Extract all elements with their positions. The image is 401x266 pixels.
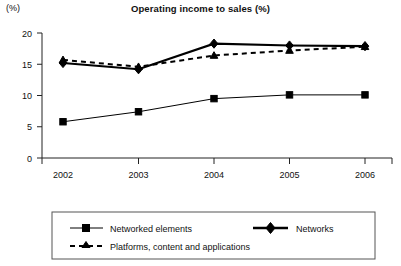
square-marker-icon — [135, 109, 141, 115]
diamond-marker-icon — [266, 223, 275, 234]
x-tick-label-2004: 2004 — [204, 170, 224, 180]
diamond-marker-icon — [210, 39, 218, 48]
square-marker-icon — [83, 225, 90, 232]
y-tick-label-0: 0 — [27, 154, 32, 164]
legend-label-platforms: Platforms, content and applications — [110, 242, 251, 252]
legend-entry-networked-elements: Networked elements — [70, 224, 193, 234]
square-marker-icon — [286, 92, 292, 98]
chart-plot-area: 20 15 10 5 0 2002 2003 2004 2005 2006 Ne… — [0, 0, 401, 266]
x-axis-ticks — [42, 158, 392, 164]
y-tick-label-10: 10 — [22, 91, 32, 101]
legend-label-networks: Networks — [296, 224, 334, 234]
y-tick-label-20: 20 — [22, 29, 32, 39]
y-tick-label-15: 15 — [22, 60, 32, 70]
data-series-layer — [59, 39, 369, 125]
legend-entry-networks: Networks — [253, 223, 334, 234]
legend-box — [52, 212, 375, 259]
square-marker-icon — [362, 92, 368, 98]
legend-entry-platforms: Platforms, content and applications — [70, 242, 251, 252]
x-tick-label-2005: 2005 — [279, 170, 299, 180]
x-tick-label-2002: 2002 — [53, 170, 73, 180]
triangle-marker-icon — [82, 242, 90, 248]
x-tick-label-2006: 2006 — [355, 170, 375, 180]
square-marker-icon — [60, 119, 66, 125]
legend-label-networked-elements: Networked elements — [110, 224, 193, 234]
y-tick-label-5: 5 — [27, 122, 32, 132]
chart-container: (%) Operating income to sales (%) 20 15 … — [0, 0, 401, 266]
y-axis-ticks — [37, 33, 42, 158]
x-tick-label-2003: 2003 — [128, 170, 148, 180]
series-networked-elements — [60, 92, 368, 125]
square-marker-icon — [211, 95, 217, 101]
